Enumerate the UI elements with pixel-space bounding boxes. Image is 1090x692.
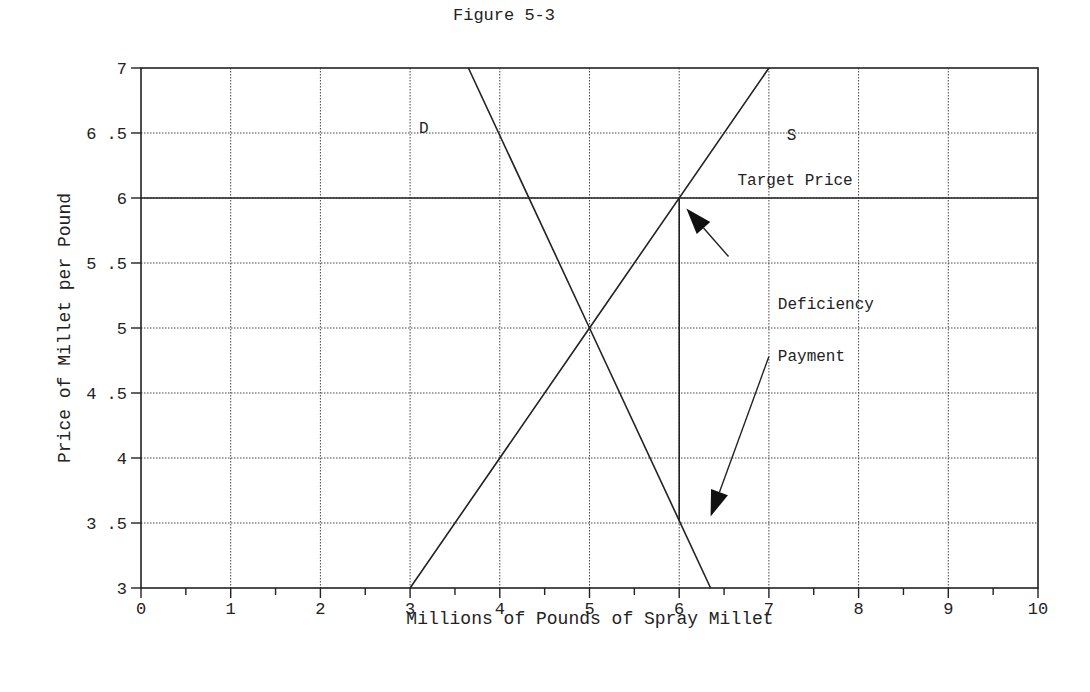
deficiency-label: Deficiency bbox=[778, 296, 874, 314]
supply-label: S bbox=[787, 127, 797, 145]
x-tick-label: 2 bbox=[315, 600, 325, 619]
y-tick-label: 6 bbox=[117, 190, 127, 209]
payment-label: Payment bbox=[778, 348, 845, 366]
y-tick-label: 4 .5 bbox=[86, 385, 127, 404]
x-tick-label: 1 bbox=[226, 600, 236, 619]
y-axis-label: Price of Millet per Pound bbox=[55, 193, 75, 463]
chart-canvas: 01234567891033 .544 .555 .566 .57 Figure… bbox=[0, 0, 1090, 692]
x-tick-label: 9 bbox=[943, 600, 953, 619]
y-tick-label: 3 .5 bbox=[86, 515, 127, 534]
arrow-down-icon bbox=[711, 489, 728, 517]
y-tick-label: 6 .5 bbox=[86, 125, 127, 144]
y-tick-label: 4 bbox=[117, 450, 127, 469]
arrow-line bbox=[720, 357, 769, 492]
x-axis-label: Millions of Pounds of Spray Millet bbox=[406, 609, 773, 629]
y-tick-label: 3 bbox=[117, 580, 127, 599]
x-tick-label: 0 bbox=[136, 600, 146, 619]
arrow-line bbox=[704, 228, 729, 257]
demand-label: D bbox=[419, 120, 429, 138]
x-tick-label: 10 bbox=[1028, 600, 1048, 619]
y-tick-label: 5 .5 bbox=[86, 255, 127, 274]
x-tick-label: 8 bbox=[853, 600, 863, 619]
y-tick-label: 5 bbox=[117, 320, 127, 339]
chart-title: Figure 5-3 bbox=[453, 6, 555, 25]
arrow-up-icon bbox=[686, 208, 710, 233]
annotation-arrows bbox=[686, 208, 769, 516]
y-tick-label: 7 bbox=[117, 60, 127, 79]
target-price-label: Target Price bbox=[738, 172, 853, 190]
